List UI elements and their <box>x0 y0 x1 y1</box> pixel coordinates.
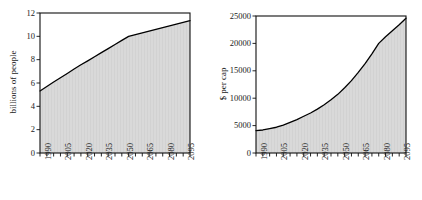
x-tick-label: 1990 <box>44 143 53 160</box>
figure-root: billions of people 024681012199020052020… <box>0 0 422 200</box>
x-tick-label: 2020 <box>85 143 94 160</box>
x-tick-label: 2080 <box>383 143 392 160</box>
x-tick-label: 1990 <box>260 143 269 160</box>
x-tick-label: 2035 <box>321 143 330 160</box>
chart-gdp-per-capita: $ per cap 050001000015000200002500019902… <box>211 0 422 200</box>
area-fill <box>40 21 190 153</box>
y-tick-label: 15000 <box>230 66 251 75</box>
x-tick-label: 2095 <box>403 143 412 160</box>
x-tick-label: 2065 <box>362 143 371 160</box>
y-tick-label: 8 <box>31 55 35 64</box>
y-tick-label: 10 <box>27 32 36 41</box>
x-tick-label: 2080 <box>167 143 176 160</box>
y-tick-label: 5000 <box>234 121 251 130</box>
y-tick-label: 0 <box>247 149 251 158</box>
y-tick-label: 2 <box>31 125 35 134</box>
x-tick-label: 2065 <box>146 143 155 160</box>
x-tick-label: 2050 <box>126 143 135 160</box>
x-tick-label: 2005 <box>280 143 289 160</box>
x-tick-label: 2005 <box>64 143 73 160</box>
plot-area-population <box>0 0 211 200</box>
y-tick-label: 0 <box>31 149 35 158</box>
y-tick-label: 25000 <box>230 12 251 21</box>
y-tick-label: 4 <box>31 102 35 111</box>
x-tick-label: 2035 <box>105 143 114 160</box>
chart-population: billions of people 024681012199020052020… <box>0 0 211 200</box>
x-tick-label: 2095 <box>187 143 196 160</box>
y-tick-label: 10000 <box>230 94 251 103</box>
y-tick-label: 12 <box>27 9 36 18</box>
y-tick-label: 20000 <box>230 39 251 48</box>
x-tick-label: 2020 <box>301 143 310 160</box>
x-tick-label: 2050 <box>342 143 351 160</box>
y-tick-label: 6 <box>31 79 35 88</box>
